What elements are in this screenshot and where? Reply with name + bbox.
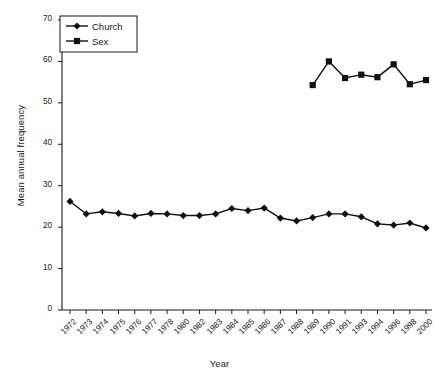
y-tick-label: 40 — [28, 138, 52, 147]
data-point-church — [341, 210, 348, 217]
data-point-sex — [310, 82, 316, 88]
y-tick-label: 70 — [28, 14, 52, 23]
data-point-church — [261, 204, 268, 211]
data-series-layer — [66, 58, 429, 231]
y-tick-label: 50 — [28, 97, 52, 106]
series-line-church — [70, 201, 426, 228]
data-point-church — [309, 214, 316, 221]
data-point-sex — [342, 75, 348, 81]
y-tick-label: 10 — [28, 263, 52, 272]
data-point-church — [390, 221, 397, 228]
y-axis-ticks — [58, 20, 62, 310]
data-point-church — [422, 224, 429, 231]
x-axis-title: Year — [0, 358, 439, 369]
legend-item-church-label: Church — [92, 21, 123, 32]
data-point-sex — [358, 72, 364, 78]
data-point-sex — [374, 74, 380, 80]
data-point-church — [325, 210, 332, 217]
y-tick-label: 20 — [28, 221, 52, 230]
data-point-church — [131, 212, 138, 219]
data-point-church — [277, 214, 284, 221]
data-point-sex — [407, 81, 413, 87]
data-point-church — [228, 205, 235, 212]
data-point-church — [180, 212, 187, 219]
legend-marker-sex — [74, 38, 80, 44]
data-point-church — [212, 210, 219, 217]
data-point-sex — [326, 58, 332, 64]
y-axis-title: Mean annual frequency — [15, 66, 26, 246]
data-point-church — [163, 210, 170, 217]
data-point-church — [374, 220, 381, 227]
y-tick-label: 60 — [28, 55, 52, 64]
data-point-church — [115, 210, 122, 217]
data-point-church — [293, 217, 300, 224]
data-point-church — [147, 210, 154, 217]
y-tick-label: 30 — [28, 180, 52, 189]
data-point-church — [244, 207, 251, 214]
x-axis-ticks — [70, 310, 426, 314]
legend-item-sex-label: Sex — [92, 36, 108, 47]
data-point-church — [196, 212, 203, 219]
data-point-church — [99, 208, 106, 215]
data-point-sex — [391, 61, 397, 67]
data-point-church — [406, 219, 413, 226]
y-tick-label: 0 — [28, 304, 52, 313]
data-point-church — [358, 213, 365, 220]
data-point-sex — [423, 77, 429, 83]
chart-figure: Mean annual frequency Year 0102030405060… — [0, 0, 439, 381]
